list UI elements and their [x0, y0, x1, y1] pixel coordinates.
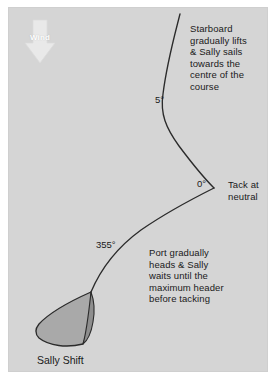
boat-label: Sally Shift	[37, 354, 84, 366]
annotation-starboard: Starboard gradually lifts & Sally sails …	[190, 23, 268, 93]
annotation-port: Port gradually heads & Sally waits until…	[149, 247, 241, 305]
angle-label-lower: 355°	[96, 239, 116, 250]
angle-label-upper: 5°	[155, 94, 164, 105]
diagram-panel: Wind 5° 0° 355° Starboard gradually lift…	[8, 7, 268, 372]
annotation-tack: Tack at neutral	[228, 179, 268, 202]
sailing-shift-diagram: Wind 5° 0° 355° Starboard gradually lift…	[0, 0, 278, 386]
wind-indicator: Wind	[23, 19, 57, 65]
arrow-down-icon	[23, 19, 57, 65]
sail-icon	[36, 292, 94, 346]
wind-label: Wind	[23, 33, 57, 42]
angle-label-neutral: 0°	[197, 178, 206, 189]
